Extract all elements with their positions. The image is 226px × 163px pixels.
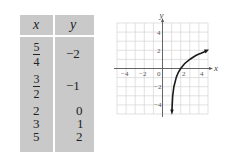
x-axis-label: x	[213, 63, 218, 73]
y-tick: 2	[157, 47, 161, 55]
y-tick: −2	[154, 83, 162, 91]
x-tick: 2	[182, 70, 186, 78]
x-tick: 4	[200, 70, 204, 78]
log-graph: x y −4 −2 0 2 4 4 2 −2 −4	[0, 0, 226, 163]
x-tick: −4	[121, 70, 129, 78]
axes	[114, 18, 213, 117]
x-tick: −2	[139, 70, 147, 78]
x-tick: 0	[157, 70, 161, 78]
y-tick: 4	[157, 29, 161, 37]
log-curve	[172, 51, 206, 110]
y-axis-label: y	[159, 10, 164, 20]
x-axis-arrow-icon	[209, 67, 213, 70]
y-tick: −4	[154, 101, 162, 109]
